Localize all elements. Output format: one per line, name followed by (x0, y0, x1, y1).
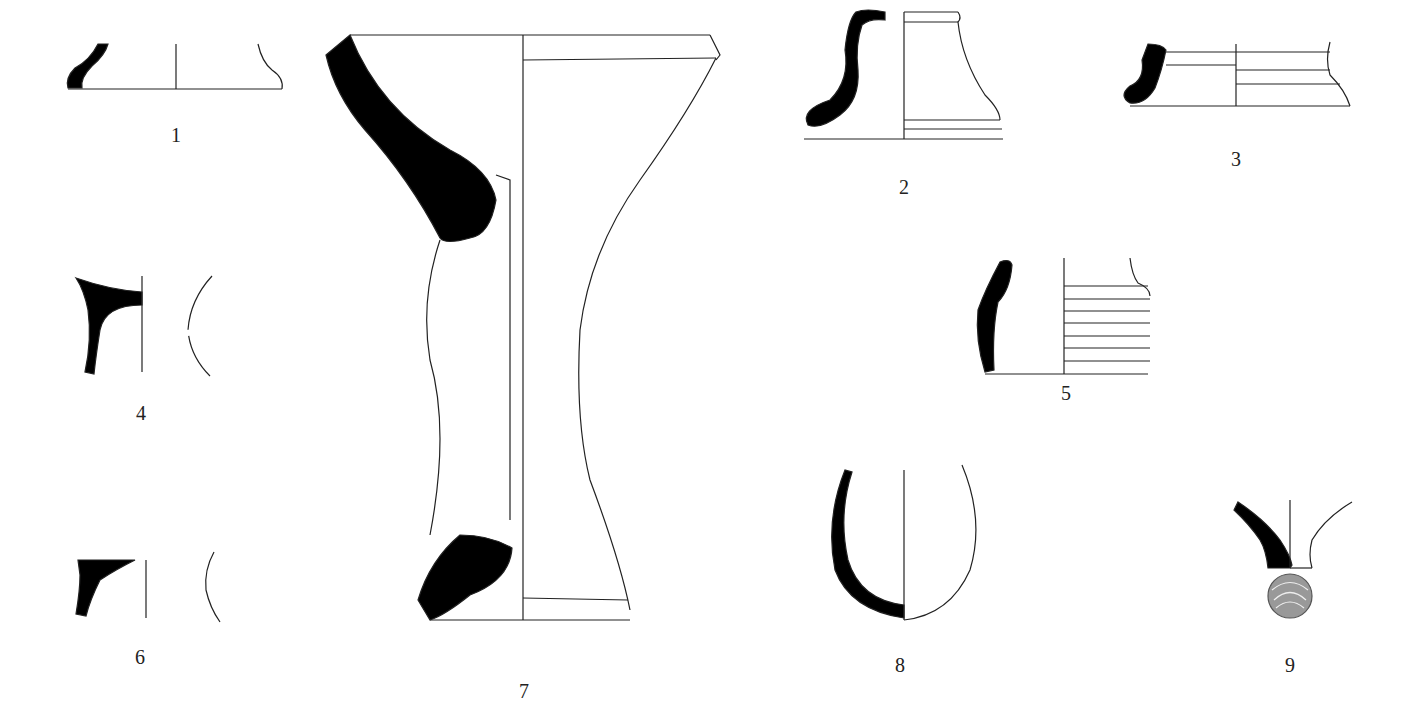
vessel-7 (326, 35, 720, 620)
label-8: 8 (895, 654, 905, 677)
label-5: 5 (1061, 382, 1071, 405)
vessel-2 (178, 10, 1003, 139)
vessel-9 (1234, 500, 1352, 618)
label-2: 2 (899, 176, 909, 199)
vessel-5 (977, 258, 1150, 374)
vessel-4 (76, 276, 212, 376)
label-1: 1 (171, 124, 181, 147)
label-9: 9 (1285, 654, 1295, 677)
vessel-6 (76, 552, 220, 622)
vessel-1 (67, 44, 282, 89)
label-6: 6 (135, 646, 145, 669)
vessel-8 (832, 465, 976, 620)
label-3: 3 (1231, 148, 1241, 171)
vessel-3 (1124, 42, 1350, 106)
pottery-drawing (0, 0, 1416, 718)
label-4: 4 (136, 402, 146, 425)
label-7: 7 (519, 680, 529, 703)
